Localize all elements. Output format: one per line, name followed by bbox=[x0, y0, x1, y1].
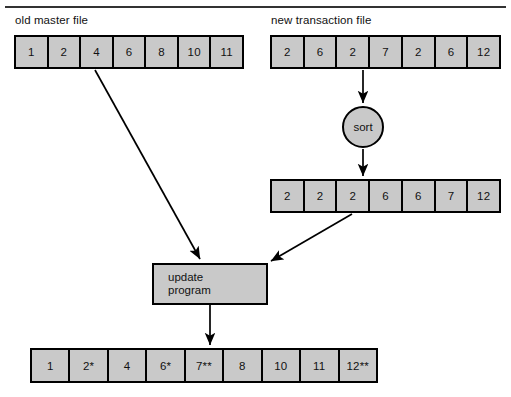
node-update-program-label-line1: update bbox=[168, 271, 203, 284]
arrow-sorted-to-update bbox=[271, 214, 352, 261]
tape-cell: 6 bbox=[114, 37, 147, 67]
arrow-master-to-update bbox=[95, 70, 200, 259]
node-update-program-label-line2: program bbox=[168, 284, 211, 297]
diagram-canvas: old master file new transaction file 1 2… bbox=[0, 0, 511, 397]
tape-cell: 2 bbox=[305, 181, 338, 211]
tape-cell: 2 bbox=[272, 181, 305, 211]
tape-cell: 2 bbox=[337, 181, 370, 211]
tape-cell: 2 bbox=[337, 37, 370, 67]
tape-cell: 2 bbox=[49, 37, 82, 67]
tape-cell: 12** bbox=[340, 350, 376, 381]
node-update-program: update program bbox=[152, 263, 268, 305]
tape-cell: 8 bbox=[146, 37, 179, 67]
tape-cell: 2 bbox=[272, 37, 305, 67]
tape-cell: 2 bbox=[403, 37, 436, 67]
tape-cell: 12 bbox=[468, 37, 499, 67]
tape-cell: 12 bbox=[468, 181, 499, 211]
tape-cell: 10 bbox=[263, 350, 301, 381]
tape-old-master-file: 1 2 4 6 8 10 11 bbox=[14, 35, 244, 69]
tape-new-master-file: 1 2* 4 6* 7** 8 10 11 12** bbox=[30, 348, 378, 383]
top-divider-rule bbox=[5, 6, 506, 8]
tape-cell: 10 bbox=[179, 37, 212, 67]
tape-cell: 2* bbox=[70, 350, 108, 381]
tape-cell: 8 bbox=[224, 350, 262, 381]
label-old-master-file: old master file bbox=[15, 14, 88, 26]
node-sort-label: sort bbox=[353, 121, 372, 133]
tape-cell: 6 bbox=[403, 181, 436, 211]
tape-cell: 1 bbox=[16, 37, 49, 67]
tape-cell: 6 bbox=[436, 37, 469, 67]
tape-cell: 7 bbox=[370, 37, 403, 67]
tape-cell: 4 bbox=[81, 37, 114, 67]
label-new-transaction-file: new transaction file bbox=[271, 14, 371, 26]
tape-cell: 7** bbox=[186, 350, 224, 381]
tape-new-transaction-file: 2 6 2 7 2 6 12 bbox=[270, 35, 501, 69]
tape-cell: 6 bbox=[305, 37, 338, 67]
tape-cell: 7 bbox=[436, 181, 469, 211]
tape-cell: 4 bbox=[109, 350, 147, 381]
tape-cell: 11 bbox=[211, 37, 242, 67]
tape-cell: 6 bbox=[370, 181, 403, 211]
tape-cell: 6* bbox=[147, 350, 185, 381]
node-sort: sort bbox=[342, 106, 384, 148]
tape-cell: 1 bbox=[32, 350, 70, 381]
tape-sorted-transaction-file: 2 2 2 6 6 7 12 bbox=[270, 179, 501, 213]
tape-cell: 11 bbox=[301, 350, 339, 381]
